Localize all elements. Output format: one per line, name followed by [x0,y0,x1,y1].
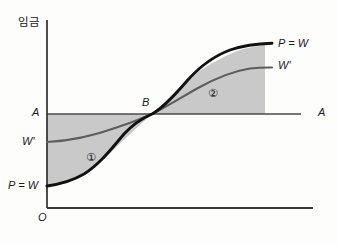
label-p-equals-w-left: P = W [8,180,38,191]
label-w-prime-right: W' [278,60,291,71]
label-region-2: ② [208,88,218,99]
label-origin: O [38,212,47,223]
label-a-left: A [32,107,39,118]
label-region-1: ① [86,152,96,163]
label-p-equals-w-right: P = W [278,38,308,49]
label-w-prime-left: W' [22,136,35,147]
label-a-right: A [318,107,325,118]
wage-curve-figure: 임금 A W' P = W B ① ② P = W W' A O [0,0,338,244]
label-point-b: B [142,97,149,108]
y-axis-title: 임금 [18,17,40,29]
